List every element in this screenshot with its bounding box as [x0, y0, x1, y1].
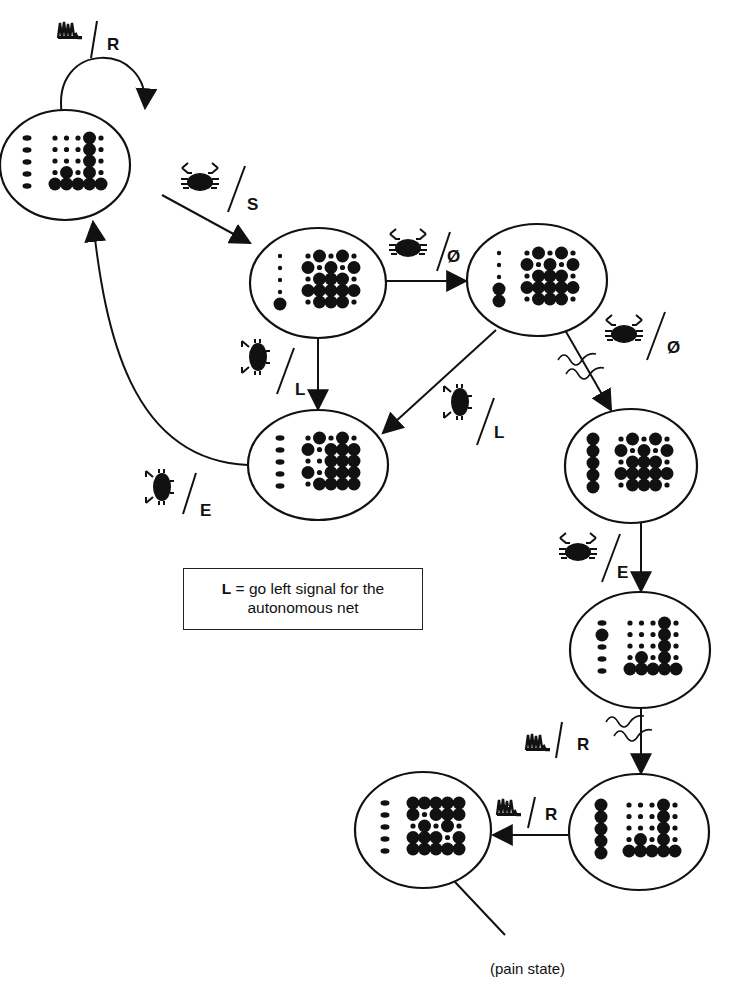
label-s6-s7: R [577, 735, 589, 754]
legend-key: L [222, 580, 231, 597]
crab-icon [559, 533, 597, 561]
spike-train-icon [497, 799, 521, 816]
crab-icon [605, 315, 643, 343]
state-node-initial-state [0, 110, 130, 220]
crab-icon [389, 229, 427, 257]
spike-train-icon [526, 734, 550, 751]
edge-s3-s4 [383, 330, 496, 433]
state-node-state-crab-null [565, 409, 697, 523]
label-s2-s4: L [295, 380, 305, 399]
edge-s1-s2 [162, 195, 250, 243]
label-s3-s5: Ø [667, 338, 680, 357]
label-s4-s1: E [200, 501, 211, 520]
pain-state-pointer [455, 882, 505, 935]
beetle-icon [444, 384, 472, 420]
state-node-state-before-pain [569, 774, 709, 890]
edge-s4-s1 [93, 222, 248, 465]
state-node-state-after-e [570, 592, 710, 708]
state-node-state-after-null [467, 224, 607, 336]
legend-line-2: autonomous net [184, 598, 422, 617]
spike-train-icon [58, 22, 82, 39]
state-node-state-after-s [250, 228, 386, 338]
label-s1-loop: R [107, 35, 119, 54]
label-s5-s6: E [617, 563, 628, 582]
beetle-icon [242, 339, 270, 375]
pain-state-label: (pain state) [490, 960, 565, 977]
legend-box: L = go left signal for the autonomous ne… [183, 568, 423, 630]
label-s2-s3: Ø [447, 247, 460, 266]
label-s1-s2: S [247, 195, 258, 214]
label-s7-s8: R [545, 805, 557, 824]
delay-wave-icon [606, 716, 652, 741]
label-s3-s4: L [494, 423, 504, 442]
state-node-state-left [248, 410, 388, 520]
edge-s3-s5 [565, 330, 611, 410]
edge-s1-loop [61, 58, 145, 115]
state-diagram: R S Ø L L Ø E E R R [0, 0, 740, 997]
state-node-pain-state [355, 772, 491, 888]
beetle-icon [146, 469, 174, 505]
legend-line-1: L = go left signal for the [184, 579, 422, 598]
crab-icon [181, 163, 219, 191]
